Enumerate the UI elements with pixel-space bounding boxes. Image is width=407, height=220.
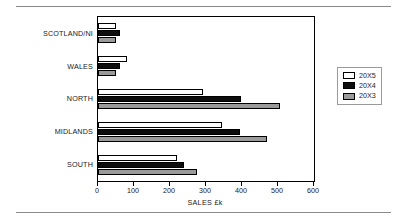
legend-swatch xyxy=(343,82,355,89)
bottom-divider xyxy=(16,212,391,213)
chart-legend: 20X520X420X3 xyxy=(337,67,382,105)
plot-area: SCOTLAND/NIWALESNORTHMIDLANDSSOUTH xyxy=(97,16,315,182)
bar xyxy=(98,122,222,128)
bar-group: MIDLANDS xyxy=(98,115,314,148)
bar-group: SCOTLAND/NI xyxy=(98,17,314,50)
legend-swatch xyxy=(343,72,355,79)
category-label: SOUTH xyxy=(1,161,98,168)
category-label: WALES xyxy=(1,63,98,70)
plot-inner: SCOTLAND/NIWALESNORTHMIDLANDSSOUTH xyxy=(98,17,314,181)
bar xyxy=(98,162,184,168)
bar xyxy=(98,56,127,62)
x-axis: SALES £k 0100200300400500600 xyxy=(97,182,313,208)
legend-item: 20X3 xyxy=(343,92,376,99)
bar xyxy=(98,169,197,175)
bar xyxy=(98,129,240,135)
legend-label: 20X4 xyxy=(359,82,376,89)
legend-label: 20X3 xyxy=(359,92,376,99)
x-axis-tick-label: 600 xyxy=(307,187,319,194)
bar xyxy=(98,136,267,142)
x-axis-tick-label: 200 xyxy=(163,187,175,194)
x-axis-tick-label: 300 xyxy=(199,187,211,194)
bar xyxy=(98,37,116,43)
bar xyxy=(98,155,177,161)
legend-swatch xyxy=(343,93,355,100)
x-axis-title: SALES £k xyxy=(97,198,313,207)
x-axis-tick-label: 100 xyxy=(127,187,139,194)
legend-item: 20X4 xyxy=(343,82,376,89)
legend-label: 20X5 xyxy=(359,72,376,79)
x-axis-tick-label: 500 xyxy=(271,187,283,194)
bar xyxy=(98,30,120,36)
legend-item: 20X5 xyxy=(343,72,376,79)
chart-page: SCOTLAND/NIWALESNORTHMIDLANDSSOUTH SALES… xyxy=(0,0,407,220)
x-axis-tick-label: 0 xyxy=(95,187,99,194)
bar-group: WALES xyxy=(98,50,314,83)
bar xyxy=(98,63,120,69)
category-label: MIDLANDS xyxy=(1,128,98,135)
bar-chart: SCOTLAND/NIWALESNORTHMIDLANDSSOUTH SALES… xyxy=(0,12,407,208)
bar xyxy=(98,89,203,95)
x-axis-tick-label: 400 xyxy=(235,187,247,194)
bar xyxy=(98,96,241,102)
top-divider xyxy=(16,6,391,7)
bar xyxy=(98,103,280,109)
bar xyxy=(98,23,116,29)
bar-group: SOUTH xyxy=(98,148,314,181)
category-label: SCOTLAND/NI xyxy=(1,30,98,37)
bar xyxy=(98,70,116,76)
category-label: NORTH xyxy=(1,95,98,102)
bar-group: NORTH xyxy=(98,83,314,116)
